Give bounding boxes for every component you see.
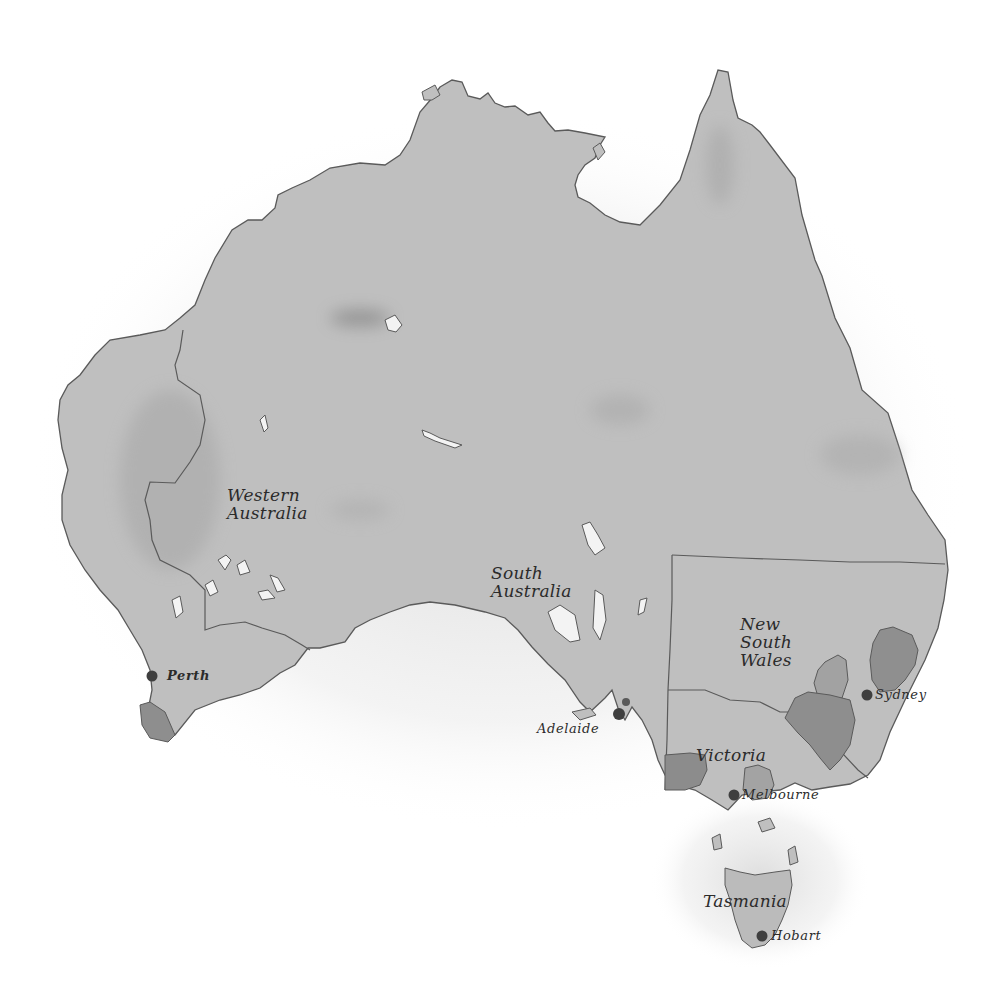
label-tasmania: Tasmania (703, 893, 787, 911)
sydney-dot (862, 690, 873, 701)
label-adelaide: Adelaide (537, 722, 599, 736)
adelaide-dot-secondary (622, 698, 630, 706)
label-south-australia: South Australia (491, 565, 572, 601)
label-perth: Perth (167, 669, 210, 683)
label-melbourne: Melbourne (742, 788, 819, 802)
label-hobart: Hobart (771, 929, 821, 943)
adelaide-dot (613, 708, 625, 720)
melbourne-dot (729, 790, 740, 801)
label-sydney: Sydney (875, 688, 927, 702)
label-victoria: Victoria (696, 747, 766, 765)
perth-dot (147, 671, 158, 682)
label-western-australia: Western Australia (227, 487, 308, 523)
label-new-south-wales: New South Wales (740, 616, 792, 670)
hobart-dot (757, 931, 768, 942)
australia-map (0, 0, 1006, 1004)
